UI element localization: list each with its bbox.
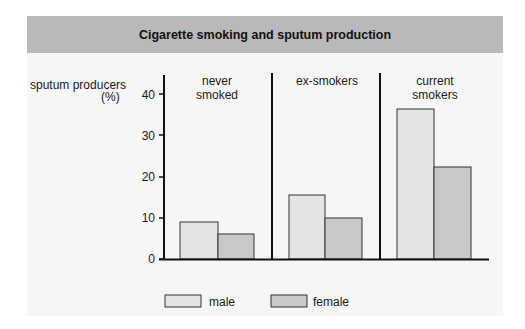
chart-plot (0, 0, 525, 329)
bar-never-female (218, 234, 254, 259)
legend-label-female: female (313, 295, 349, 309)
bar-never-male (180, 222, 218, 259)
legend-swatch-male (165, 295, 201, 307)
bar-ex-female (325, 218, 362, 259)
legend-label-male: male (209, 295, 235, 309)
bar-current-male (397, 109, 434, 259)
bar-ex-male (289, 195, 325, 259)
legend-swatch-female (271, 295, 307, 307)
bar-current-female (434, 167, 471, 259)
